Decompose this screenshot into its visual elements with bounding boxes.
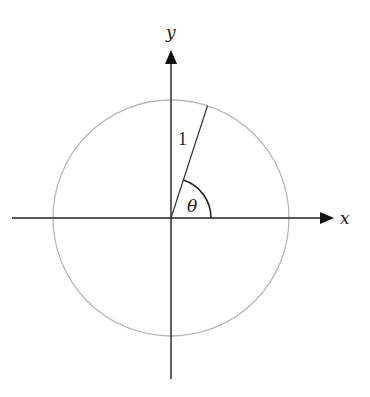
x-axis-label: x (340, 208, 350, 228)
radius-label: 1 (178, 129, 187, 149)
angle-label: θ (187, 196, 197, 216)
unit-circle-diagram: x y 1 θ (0, 0, 370, 397)
y-axis-label: y (165, 22, 176, 42)
x-axis-arrow-icon (320, 212, 334, 224)
y-axis-arrow-icon (165, 50, 177, 64)
